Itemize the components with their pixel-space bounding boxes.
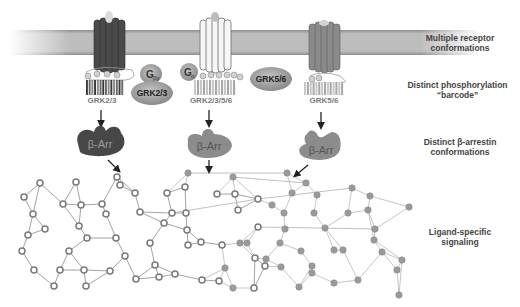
network-node-filled: [298, 248, 304, 254]
network-node-filled: [371, 237, 377, 243]
network-node-hollow: [99, 201, 105, 207]
network-node-filled: [331, 247, 337, 253]
beta-arrestin-1: β-Arr: [77, 126, 124, 156]
network-node-filled: [277, 240, 283, 246]
barcode-white: [194, 80, 235, 95]
network-node-hollow: [21, 194, 27, 200]
network-node-hollow: [25, 232, 31, 238]
row-label-line: “barcode”: [395, 90, 520, 100]
network-node-hollow: [84, 235, 90, 241]
grk23-kinase-label: GRK2/3: [137, 88, 168, 98]
network-node-filled: [379, 249, 385, 255]
network-node-hollow: [117, 182, 123, 188]
network-node-hollow: [81, 267, 87, 273]
network-node-hollow: [184, 227, 190, 233]
arrow-diagonal-icon: [296, 165, 308, 175]
network-node-hollow: [235, 207, 241, 213]
network-node-filled: [185, 170, 191, 176]
row-label-barcode: Distinct phosphorylation “barcode”: [395, 80, 520, 100]
beta-arrestin-1-label: β-Arr: [88, 138, 113, 150]
network-node-hollow: [103, 211, 109, 217]
phospho-sites: [309, 75, 322, 82]
network-node-hollow: [78, 202, 84, 208]
beta-arrestin-3: β-Arr: [299, 130, 340, 160]
network-node-filled: [340, 247, 346, 253]
network-node-filled: [237, 240, 243, 246]
network-node-hollow: [185, 242, 191, 248]
network-node-hollow: [76, 223, 82, 229]
signaling-network-nodes: [19, 170, 412, 298]
beta-arrestin-2: β-Arr: [188, 129, 232, 158]
network-node-hollow: [133, 276, 139, 282]
network-node-filled: [269, 202, 275, 208]
network-node-filled: [284, 170, 290, 176]
network-node-hollow: [122, 253, 128, 259]
network-node-filled: [230, 174, 236, 180]
network-node-hollow: [262, 263, 268, 269]
network-node-hollow: [30, 211, 36, 217]
network-node-filled: [399, 257, 405, 263]
row-label-line: Distinct β-arrestin: [400, 137, 520, 147]
row-label-line: Ligand-specific: [400, 227, 520, 237]
network-node-hollow: [183, 210, 189, 216]
network-node-hollow: [255, 196, 261, 202]
network-node-filled: [406, 204, 412, 210]
network-node-hollow: [255, 224, 261, 230]
network-node-filled: [289, 190, 295, 196]
row-label-line: signaling: [400, 237, 520, 247]
network-node-filled: [303, 180, 309, 186]
barcode-medium: [304, 82, 343, 95]
g-beta-gamma-sub: βγ: [153, 75, 159, 81]
network-node-hollow: [164, 190, 170, 196]
barcode-dark: [86, 80, 123, 95]
network-node-hollow: [251, 285, 257, 291]
row-label-line: conformations: [400, 147, 520, 157]
network-node-hollow: [216, 278, 222, 284]
network-node-hollow: [198, 239, 204, 245]
network-node-hollow: [37, 180, 43, 186]
grk23-kinase: GRK2/3: [131, 81, 173, 105]
row-label-arrestin: Distinct β-arrestin conformations: [400, 137, 520, 157]
network-node-hollow: [42, 226, 48, 232]
network-node-hollow: [51, 283, 57, 289]
network-node-filled: [349, 185, 355, 191]
barcode-label-grk56: GRK5/6: [304, 96, 344, 105]
barcode-label-grk2356: GRK2/3/5/6: [186, 96, 236, 105]
diagram-canvas: G βγ GRK2/3 G α GRK5/6 β-Arr: [0, 0, 520, 307]
network-node-hollow: [83, 283, 89, 289]
network-node-hollow: [113, 235, 119, 241]
network-node-hollow: [172, 271, 178, 277]
network-node-filled: [278, 264, 284, 270]
network-node-filled: [322, 225, 328, 231]
row-label-signaling: Ligand-specific signaling: [400, 227, 520, 247]
network-node-hollow: [252, 255, 258, 261]
grk56-kinase: GRK5/6: [250, 67, 292, 91]
network-node-hollow: [114, 174, 120, 180]
network-node-filled: [244, 240, 250, 246]
row-label-line: Multiple receptor: [400, 33, 520, 43]
receptor-medium: [304, 20, 346, 95]
network-node-filled: [314, 192, 320, 198]
network-node-hollow: [73, 179, 79, 185]
network-node-hollow: [156, 274, 162, 280]
network-node-filled: [230, 285, 236, 291]
network-node-filled: [345, 210, 351, 216]
network-node-filled: [263, 256, 269, 262]
network-node-filled: [309, 263, 315, 269]
row-label-line: conformations: [400, 43, 520, 53]
barcode-label-grk23: GRK2/3: [82, 96, 122, 105]
network-node-hollow: [19, 248, 25, 254]
network-node-filled: [367, 193, 373, 199]
row-label-receptor: Multiple receptor conformations: [400, 33, 520, 53]
beta-arrestin-2-label: β-Arr: [197, 140, 222, 152]
network-node-filled: [331, 280, 337, 286]
network-node-hollow: [199, 277, 205, 283]
network-node-filled: [309, 270, 315, 276]
row-label-line: Distinct phosphorylation: [395, 80, 520, 90]
network-node-filled: [311, 210, 317, 216]
network-node-hollow: [169, 210, 175, 216]
beta-arrestin-3-label: β-Arr: [309, 144, 334, 156]
network-node-hollow: [60, 201, 66, 207]
network-node-hollow: [182, 184, 188, 190]
network-node-hollow: [107, 268, 113, 274]
